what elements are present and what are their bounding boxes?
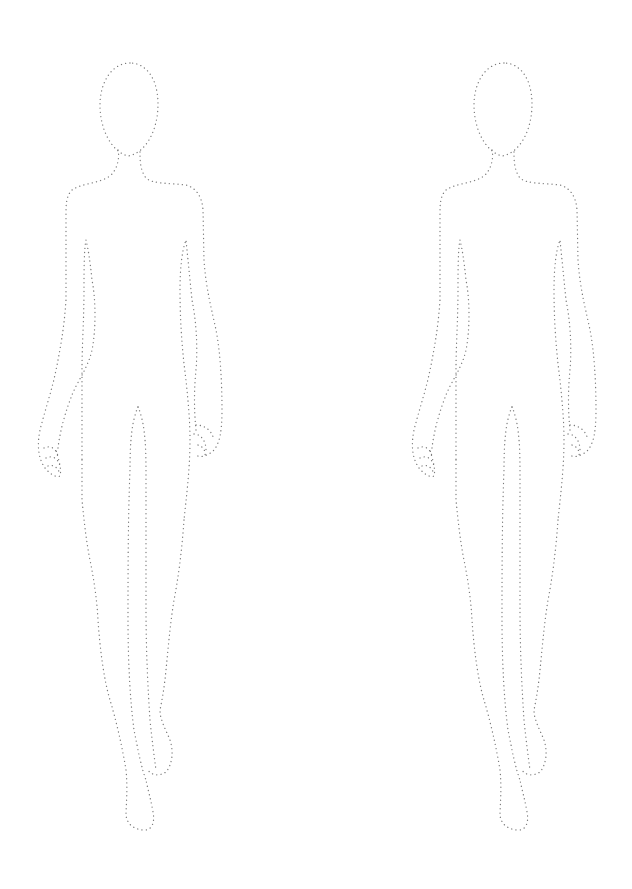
- croquis-sheet: Fashion croquis template: [0, 0, 632, 889]
- croquis-figure-2: [412, 63, 596, 830]
- croquis-figure-1: [38, 63, 222, 830]
- croquis-drawing: [0, 0, 632, 889]
